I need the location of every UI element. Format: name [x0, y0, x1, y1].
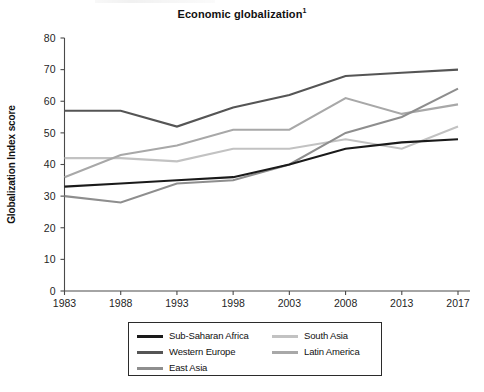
legend-swatch-icon: [272, 335, 298, 338]
x-tick-label: 1998: [221, 297, 245, 309]
x-axis: 19831988199319982003200820132017: [53, 291, 470, 309]
y-tick-group: 01020304050607080: [44, 32, 65, 297]
y-tick-label: 80: [44, 32, 56, 44]
legend-swatch-icon: [137, 351, 163, 354]
legend-item-label: Western Europe: [169, 347, 235, 357]
legend-item-label: East Asia: [169, 363, 207, 373]
chart-legend: Sub-Saharan AfricaSouth AsiaWestern Euro…: [128, 322, 382, 376]
legend-item-label: Sub-Saharan Africa: [169, 331, 249, 341]
y-tick-label: 30: [44, 190, 56, 202]
series-lines-group: [65, 70, 459, 203]
series-line-east-asia: [65, 89, 459, 203]
x-tick-label: 2003: [278, 297, 302, 309]
legend-swatch-icon: [272, 351, 298, 354]
legend-item-sub-saharan-africa[interactable]: Sub-Saharan Africa: [137, 331, 272, 341]
x-tick-label: 1993: [165, 297, 189, 309]
series-line-south-asia: [65, 127, 459, 162]
x-tick-label: 2013: [390, 297, 414, 309]
legend-swatch-icon: [137, 367, 163, 370]
y-tick-label: 70: [44, 63, 56, 75]
legend-grid: Sub-Saharan AfricaSouth AsiaWestern Euro…: [129, 323, 381, 375]
legend-item-label: Latin America: [304, 347, 360, 357]
y-tick-label: 0: [50, 285, 56, 297]
x-tick-label: 1988: [109, 297, 133, 309]
legend-item-western-europe[interactable]: Western Europe: [137, 347, 272, 357]
series-line-latin-america: [65, 98, 459, 177]
legend-item-label: South Asia: [304, 331, 348, 341]
legend-swatch-icon: [137, 335, 163, 338]
y-tick-label: 50: [44, 127, 56, 139]
x-tick-group: 19831988199319982003200820132017: [53, 291, 470, 309]
y-tick-label: 20: [44, 222, 56, 234]
y-tick-label: 60: [44, 95, 56, 107]
y-axis: 01020304050607080: [44, 32, 65, 297]
y-tick-label: 40: [44, 158, 56, 170]
legend-item-east-asia[interactable]: East Asia: [137, 363, 272, 373]
x-tick-label: 1983: [53, 297, 77, 309]
chart-container: Economic globalization1 Globalization In…: [0, 0, 484, 392]
x-tick-label: 2008: [334, 297, 358, 309]
legend-item-south-asia[interactable]: South Asia: [272, 331, 391, 341]
x-tick-label: 2017: [446, 297, 470, 309]
series-line-sub-saharan-africa: [65, 139, 459, 186]
y-tick-label: 10: [44, 253, 56, 265]
legend-item-latin-america[interactable]: Latin America: [272, 347, 391, 357]
